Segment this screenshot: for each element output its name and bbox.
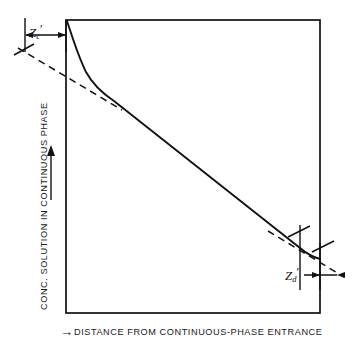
entrance-extrapolation-line <box>18 48 122 110</box>
zd-intercept-slash <box>312 241 334 252</box>
zd-left-arrowhead <box>312 272 320 278</box>
plot-frame <box>66 20 320 313</box>
diagram-canvas <box>0 0 362 350</box>
profile-path <box>67 21 320 259</box>
zd-prime: ′ <box>296 265 299 279</box>
exit-extrapolation-line <box>268 231 344 277</box>
plot-frame-rect <box>66 20 320 313</box>
zd-dimension-label: Zd′ <box>285 265 299 284</box>
concentration-profile-curve <box>67 21 320 259</box>
x-axis-label: DISTANCE FROM CONTINUOUS-PHASE ENTRANCE <box>74 327 322 337</box>
y-axis-label: CONC. SOLUTION IN CONTINUOUS PHASE <box>39 102 49 310</box>
zc-intercept-slash <box>14 44 34 55</box>
figure-container: · · · <box>0 0 362 350</box>
zc-right-arrowhead <box>58 32 66 38</box>
x-axis-arrow-icon: → <box>60 325 73 338</box>
zc-prime: ′ <box>40 22 43 36</box>
entrance-dashed-tangent <box>18 48 122 110</box>
zd-right-arrowhead <box>337 272 345 278</box>
zd-departure-slash <box>288 226 310 237</box>
exit-dashed-tangent <box>268 231 344 277</box>
zc-dimension-label: Zc′ <box>29 22 43 41</box>
